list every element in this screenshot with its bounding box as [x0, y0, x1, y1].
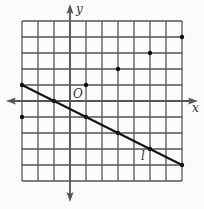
data-point [20, 83, 24, 87]
data-point [20, 115, 24, 119]
line-label: l [141, 149, 145, 163]
data-point [180, 163, 184, 167]
y-axis [67, 4, 74, 202]
data-point [148, 51, 152, 55]
data-point [116, 131, 120, 135]
y-axis-label: y [75, 2, 83, 16]
data-point [148, 147, 152, 151]
coordinate-plane: y x O l [0, 0, 204, 209]
data-point [180, 35, 184, 39]
x-axis-label: x [192, 101, 199, 115]
data-point [116, 67, 120, 71]
origin-label: O [73, 87, 83, 101]
data-point [84, 83, 88, 87]
data-point [52, 99, 56, 103]
data-point [84, 115, 88, 119]
